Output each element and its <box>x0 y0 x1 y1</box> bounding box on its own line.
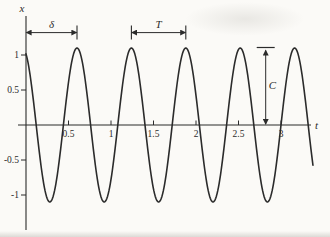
x-tick-label-2: 2 <box>194 129 199 139</box>
y-axis-label: x <box>19 2 25 14</box>
amplitude-span-label: C <box>269 79 277 91</box>
y-tick-label--1: -1 <box>11 190 19 200</box>
x-tick-label-1: 1 <box>109 129 114 139</box>
period-span-label: T <box>156 18 163 30</box>
sine-plot-canvas: t0.511.522.53x10.5-0.5-1δTC <box>0 0 330 237</box>
y-tick-label--0.5: -0.5 <box>4 155 19 165</box>
x-axis-label: t <box>315 119 319 131</box>
x-tick-label-0.5: 0.5 <box>63 129 75 139</box>
y-axis: x10.5-0.5-1 <box>4 2 26 230</box>
delta-span-label: δ <box>49 18 55 30</box>
delta-span-annotation: δ <box>27 18 78 39</box>
sine-wave-figure: t0.511.522.53x10.5-0.5-1δTC <box>0 0 330 237</box>
x-tick-label-2.5: 2.5 <box>233 129 245 139</box>
y-tick-label-0.5: 0.5 <box>7 85 19 95</box>
amplitude-span-annotation: C <box>257 48 277 125</box>
y-tick-label-1: 1 <box>14 50 19 60</box>
period-span-annotation: T <box>131 18 185 39</box>
x-tick-label-1.5: 1.5 <box>148 129 160 139</box>
